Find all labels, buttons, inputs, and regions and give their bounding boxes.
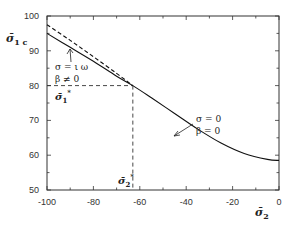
- x-tick-label: -40: [180, 197, 193, 207]
- sigma1-star-label: σ̄1*: [55, 88, 71, 105]
- annotation-beta-nonzero: β ≠ 0: [55, 74, 79, 84]
- series-solid-curve: [47, 33, 279, 160]
- sigma2-star-label: σ̄2*: [118, 172, 134, 189]
- annotation-sigma-iomega: σ = ι ω: [55, 62, 88, 72]
- y-tick-label: 90: [29, 46, 39, 56]
- x-tick-label: -80: [87, 197, 100, 207]
- data-series: [47, 25, 279, 161]
- x-tick-label: -20: [226, 197, 239, 207]
- y-tick-label: 50: [29, 185, 39, 195]
- annotation-sigma-zero: σ = 0: [196, 114, 221, 124]
- y-tick-label: 60: [29, 150, 39, 160]
- x-axis-title: σ̄2: [255, 206, 269, 221]
- plot-border: [47, 16, 279, 190]
- y-axis-title: σ̄1 c: [6, 32, 27, 47]
- x-tick-label: -100: [38, 197, 56, 207]
- chart: -100-80-60-40-2005060708090100 σ̄1 c σ̄2…: [0, 0, 294, 230]
- y-tick-label: 70: [29, 115, 39, 125]
- y-tick-label: 80: [29, 81, 39, 91]
- plot-frame: [47, 16, 279, 190]
- y-tick-label: 100: [24, 11, 39, 21]
- x-tick-label: -60: [133, 197, 146, 207]
- x-tick-label: 0: [276, 197, 281, 207]
- arrow-icon: [67, 49, 73, 62]
- axis-ticks: -100-80-60-40-2005060708090100: [24, 11, 282, 207]
- annotation-beta-zero: β = 0: [196, 126, 220, 136]
- arrow-icon: [174, 124, 193, 136]
